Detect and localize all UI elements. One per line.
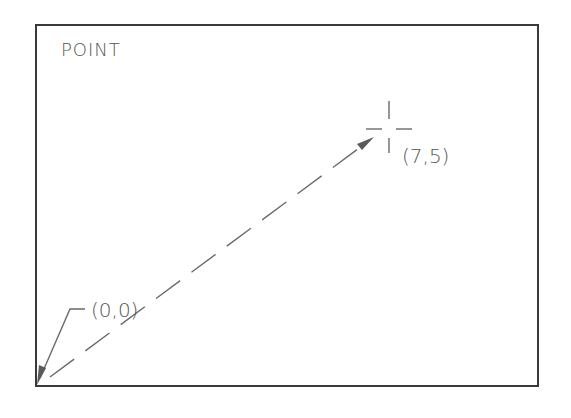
- point-label: (7,5): [402, 144, 449, 168]
- point-diagram: POINT (7,5) (0,0): [0, 0, 571, 418]
- diagram-title: POINT: [61, 39, 121, 60]
- drawing-frame: [36, 25, 538, 386]
- origin-label: (0,0): [91, 298, 138, 322]
- vector-arrowhead-icon: [357, 137, 374, 150]
- dashed-vector-line: [50, 143, 366, 377]
- origin-arrowhead-icon: [37, 365, 46, 385]
